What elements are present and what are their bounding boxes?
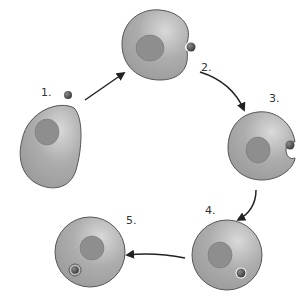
step-label-4: 4. bbox=[205, 204, 216, 217]
step-label-3: 3. bbox=[269, 92, 280, 105]
particle bbox=[187, 43, 196, 52]
nucleus bbox=[136, 35, 164, 61]
nucleus bbox=[246, 137, 270, 163]
cell-step-3 bbox=[228, 112, 295, 180]
arrow-3-to-4 bbox=[238, 190, 256, 220]
step-label-2: 2. bbox=[201, 61, 212, 74]
step-label-5: 5. bbox=[126, 214, 137, 227]
particle bbox=[237, 269, 246, 278]
cycle-diagram bbox=[0, 0, 306, 300]
particle bbox=[71, 266, 79, 274]
arrow-2-to-3 bbox=[200, 72, 244, 110]
nucleus bbox=[80, 236, 104, 260]
step-label-1: 1. bbox=[41, 86, 52, 99]
cell-step-4 bbox=[192, 220, 262, 290]
cell-step-2 bbox=[122, 10, 196, 80]
nucleus bbox=[208, 242, 232, 268]
particle bbox=[286, 141, 295, 150]
cell-step-5 bbox=[55, 217, 125, 287]
arrow-4-to-5 bbox=[127, 254, 185, 258]
nucleus bbox=[35, 119, 59, 145]
particle bbox=[64, 91, 72, 99]
cell-step-1 bbox=[20, 91, 81, 188]
arrow-1-to-2 bbox=[85, 73, 124, 100]
